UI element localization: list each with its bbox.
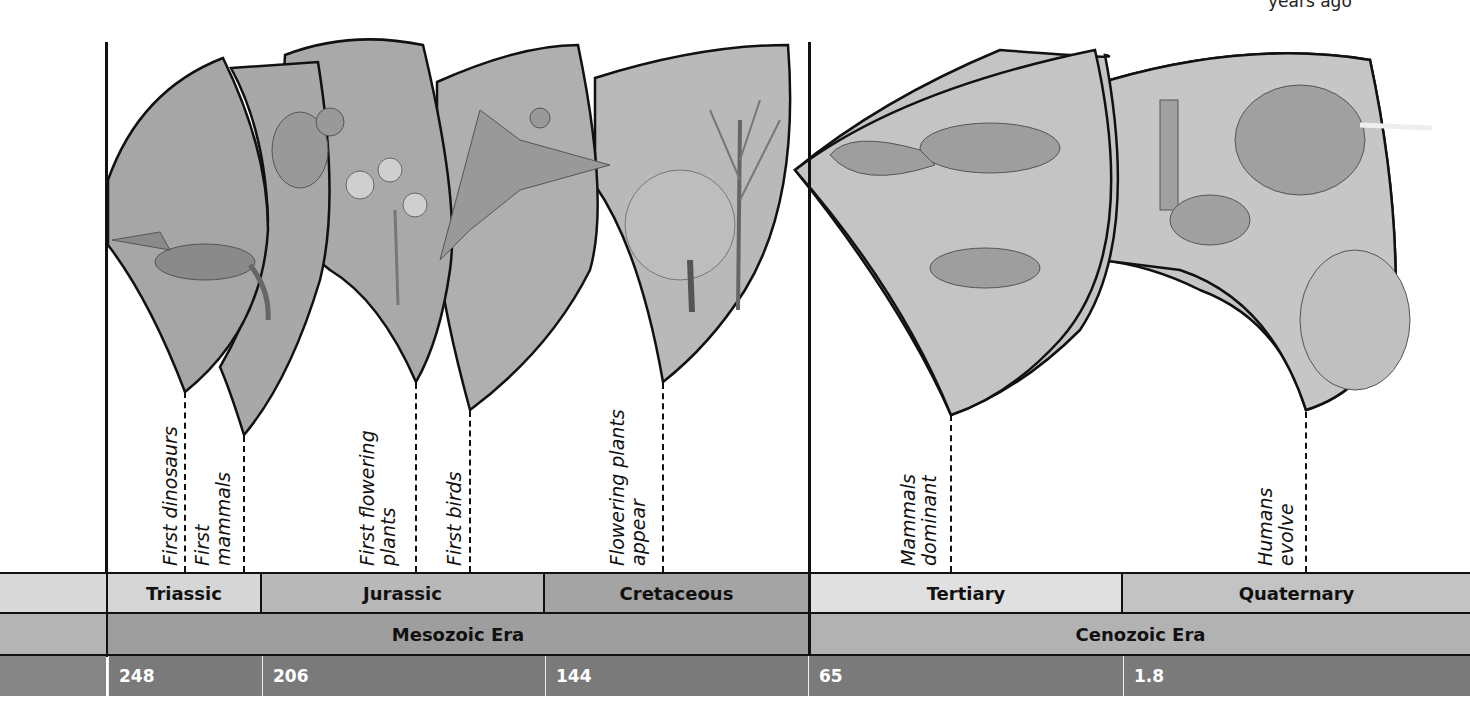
geologic-timeline-diagram: years ago	[0, 0, 1470, 723]
period-cretaceous: Cretaceous	[545, 572, 808, 614]
event-dash-first-flowering-plants	[415, 383, 417, 572]
period-triassic: Triassic	[108, 572, 262, 614]
period-quaternary: Quaternary	[1123, 572, 1470, 614]
age-band-leftcap	[0, 656, 106, 696]
period-band-leftcap	[0, 572, 106, 614]
era-band-leftcap	[0, 614, 106, 656]
event-dash-first-mammals	[243, 436, 245, 572]
age-label: 144	[556, 666, 592, 686]
era-mesozoic: Mesozoic Era	[108, 614, 808, 656]
era-cenozoic: Cenozoic Era	[811, 614, 1470, 656]
age-65: 65	[808, 656, 1123, 696]
event-label-first-flowering-plants: First flowering plants	[357, 430, 399, 566]
cenozoic-start-divider	[808, 42, 811, 657]
age-206: 206	[262, 656, 545, 696]
event-label-first-dinosaurs: First dinosaurs	[160, 426, 181, 566]
age-label: 248	[119, 666, 155, 686]
period-jurassic: Jurassic	[262, 572, 545, 614]
event-dash-first-birds	[469, 411, 471, 572]
age-label: 1.8	[1134, 666, 1164, 686]
event-dash-first-dinosaurs	[184, 392, 186, 572]
event-dash-humans-evolve	[1305, 412, 1307, 572]
event-label-flowering-plants-appear: Flowering plants appear	[607, 409, 649, 566]
age-144: 144	[545, 656, 808, 696]
event-label-mammals-dominant: Mammals dominant	[898, 474, 940, 566]
age-1-8: 1.8	[1123, 656, 1470, 696]
event-dash-flowering-plants-appear	[662, 383, 664, 572]
mesozoic-start-divider	[105, 42, 108, 657]
age-label: 206	[273, 666, 309, 686]
period-tertiary: Tertiary	[811, 572, 1123, 614]
age-label: 65	[819, 666, 843, 686]
age-248: 248	[108, 656, 262, 696]
event-label-humans-evolve: Humans evolve	[1255, 488, 1297, 566]
event-dash-mammals-dominant	[950, 415, 952, 572]
event-label-first-birds: First birds	[444, 471, 465, 566]
event-label-first-mammals: First mammals	[192, 472, 234, 566]
